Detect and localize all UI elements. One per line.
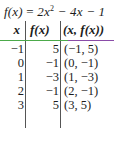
cell-x: −1 — [0, 42, 24, 56]
cell-fx: −1 — [26, 56, 59, 70]
cell-x: 2 — [0, 84, 24, 98]
values-table: x f(x) (x, f(x)) — [0, 21, 127, 40]
table-header-row: x f(x) (x, f(x)) — [0, 21, 127, 40]
cell-fx: 5 — [26, 98, 59, 112]
cell-point: (0, −1) — [64, 56, 98, 70]
cell-point: (1, −3) — [64, 70, 98, 84]
header-point: (x, f(x)) — [63, 21, 104, 39]
cell-point: (−1, 5) — [64, 42, 98, 56]
table-row: 2 −1 (2, −1) — [0, 84, 127, 98]
table-row: −1 5 (−1, 5) — [0, 42, 127, 56]
equals-sign: = — [26, 4, 34, 19]
function-term-quadratic: 2x — [37, 4, 50, 19]
header-fx: f(x) — [30, 21, 50, 39]
cell-fx: −1 — [26, 84, 59, 98]
cell-fx: 5 — [26, 42, 59, 56]
function-remaining-terms: − 4x − 1 — [54, 4, 105, 19]
function-definition: f(x) = 2x2 − 4x − 1 — [4, 4, 105, 20]
cell-point: (3, 5) — [64, 98, 91, 112]
table-row: 1 −3 (1, −3) — [0, 70, 127, 84]
header-rule-purple — [68, 40, 114, 41]
table-body: −1 5 (−1, 5) 0 −1 (0, −1) 1 −3 (1, −3) 2… — [0, 42, 127, 112]
cell-fx: −3 — [26, 70, 59, 84]
function-lhs: f(x) — [4, 4, 23, 19]
cell-x: 3 — [0, 98, 24, 112]
cell-x: 1 — [0, 70, 24, 84]
cell-x: 0 — [0, 56, 24, 70]
table-row: 0 −1 (0, −1) — [0, 56, 127, 70]
header-x: x — [0, 21, 20, 39]
cell-point: (2, −1) — [64, 84, 98, 98]
table-row: 3 5 (3, 5) — [0, 98, 127, 112]
